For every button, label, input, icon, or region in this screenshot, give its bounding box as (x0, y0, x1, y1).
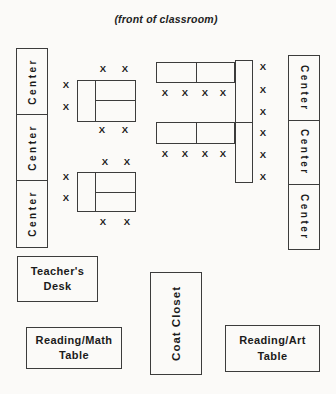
center-box: Center (288, 55, 320, 121)
desk-divider (95, 192, 136, 193)
seat-x-marker: X (260, 107, 266, 117)
front-of-classroom-label: (front of classroom) (0, 13, 332, 25)
seat-x-marker: X (124, 157, 130, 167)
seat-x-marker: X (122, 125, 128, 135)
seat-x-marker: X (260, 150, 266, 160)
reading-art-label-line1: Reading/Art (239, 333, 306, 348)
teachers-desk: Teacher's Desk (17, 256, 98, 302)
center-box: Center (16, 114, 48, 182)
center-box-label: Center (299, 129, 310, 176)
teachers-desk-label-line2: Desk (44, 279, 72, 294)
seat-x-marker: X (220, 149, 226, 159)
seat-x-marker: X (100, 64, 106, 74)
center-box-label: Center (27, 190, 38, 237)
seat-x-marker: X (63, 80, 69, 90)
center-box: Center (16, 48, 48, 116)
seat-x-marker: X (124, 217, 130, 227)
center-box: Center (288, 120, 320, 186)
reading-math-label-line1: Reading/Math (36, 333, 113, 348)
center-box: Center (16, 180, 48, 248)
seat-x-marker: X (260, 128, 266, 138)
left-center-column: Center Center Center (16, 48, 48, 248)
right-center-column: Center Center Center (288, 55, 320, 250)
desk-group-lower-left (77, 172, 136, 212)
classroom-layout-diagram: (front of classroom) Center Center Cente… (0, 0, 336, 394)
desk-row-right-top (156, 62, 235, 83)
coat-closet-label: Coat Closet (168, 286, 184, 361)
seat-x-marker: X (220, 88, 226, 98)
seat-x-marker: X (260, 85, 266, 95)
seat-x-marker: X (260, 172, 266, 182)
seat-x-marker: X (63, 193, 69, 203)
seat-x-marker: X (202, 149, 208, 159)
desk-divider (95, 81, 96, 121)
desk-divider (196, 63, 197, 82)
desk-group-upper-left (77, 80, 136, 122)
seat-x-marker: X (162, 149, 168, 159)
seat-x-marker: X (182, 149, 188, 159)
desk-divider (95, 100, 136, 101)
coat-closet: Coat Closet (150, 272, 202, 375)
center-box-label: Center (299, 194, 310, 241)
desk-divider (196, 123, 197, 143)
desk-divider (236, 122, 252, 123)
seat-x-marker: X (182, 88, 188, 98)
seat-x-marker: X (162, 88, 168, 98)
center-box-label: Center (299, 65, 310, 112)
seat-x-marker: X (99, 125, 105, 135)
reading-art-table: Reading/Art Table (225, 325, 320, 372)
reading-math-table: Reading/Math Table (26, 327, 122, 369)
center-box-label: Center (27, 124, 38, 171)
reading-art-label-line2: Table (258, 349, 288, 364)
center-box-label: Center (27, 58, 38, 105)
seat-x-marker: X (102, 157, 108, 167)
seat-x-marker: X (100, 217, 106, 227)
desk-row-right-bottom (156, 122, 235, 144)
seat-x-marker: X (260, 62, 266, 72)
seat-x-marker: X (63, 102, 69, 112)
seat-x-marker: X (122, 64, 128, 74)
center-box: Center (288, 184, 320, 250)
desk-column-right (235, 60, 253, 183)
seat-x-marker: X (202, 88, 208, 98)
teachers-desk-label-line1: Teacher's (31, 264, 85, 279)
seat-x-marker: X (63, 172, 69, 182)
reading-math-label-line2: Table (59, 348, 89, 363)
